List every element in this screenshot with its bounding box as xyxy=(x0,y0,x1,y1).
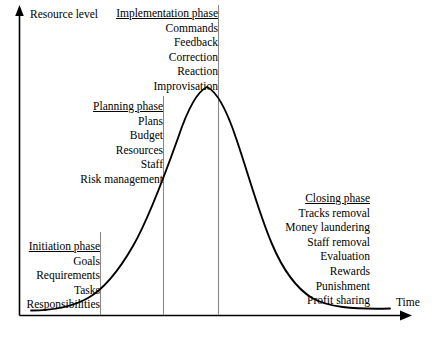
phase-item: Goals xyxy=(10,254,100,269)
phase-item: Tasks xyxy=(10,283,100,298)
phase-item: Commands xyxy=(80,21,218,36)
phase-item: Responsibilities xyxy=(10,297,100,312)
phase-title-closing: Closing phase xyxy=(255,191,370,206)
phase-item: Rewards xyxy=(255,264,370,279)
phase-item: Reaction xyxy=(80,64,218,79)
phase-item: Tracks removal xyxy=(255,206,370,221)
phase-item: Punishment xyxy=(255,279,370,294)
phase-title-planning: Planning phase xyxy=(55,99,163,114)
phase-item: Plans xyxy=(55,114,163,129)
phase-block-closing: Closing phase Tracks removal Money laund… xyxy=(255,191,370,308)
phase-title-initiation: Initiation phase xyxy=(10,239,100,254)
phase-item: Evaluation xyxy=(255,249,370,264)
phase-item: Improvisation xyxy=(80,79,218,94)
phase-item: Requirements xyxy=(10,268,100,283)
phase-item: Resources xyxy=(55,143,163,158)
y-axis-arrowhead xyxy=(15,5,24,16)
phase-block-initiation: Initiation phase Goals Requirements Task… xyxy=(10,239,100,312)
x-axis-arrowhead xyxy=(400,311,412,321)
phase-item: Staff removal xyxy=(255,235,370,250)
phase-item: Staff xyxy=(55,157,163,172)
phase-item: Budget xyxy=(55,128,163,143)
phase-title-implementation: Implementation phase xyxy=(80,6,218,21)
phase-block-implementation: Implementation phase Commands Feedback C… xyxy=(80,6,218,94)
phase-item: Correction xyxy=(80,50,218,65)
phase-block-planning: Planning phase Plans Budget Resources St… xyxy=(55,99,163,187)
phase-item: Risk management xyxy=(55,172,163,187)
x-axis-label: Time xyxy=(396,296,420,308)
phase-item: Profit sharing xyxy=(255,293,370,308)
project-life-cycle-diagram: Resource level Time Implementation phase… xyxy=(0,0,435,337)
phase-item: Money laundering xyxy=(255,220,370,235)
phase-item: Feedback xyxy=(80,35,218,50)
